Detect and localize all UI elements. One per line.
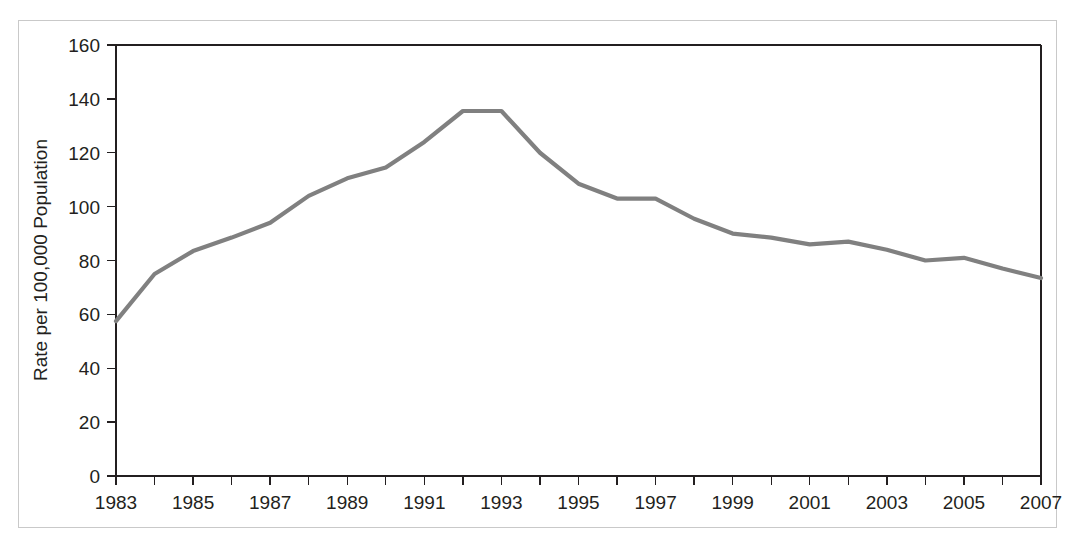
line-chart: 020406080100120140160 198319851987198919… — [0, 0, 1075, 547]
y-axis-tick-labels: 020406080100120140160 — [68, 35, 100, 487]
x-axis-tick-labels: 1983198519871989199119931995199719992001… — [95, 492, 1062, 513]
y-tick-label: 100 — [68, 197, 100, 218]
x-tick-label: 1993 — [480, 492, 522, 513]
y-tick-label: 160 — [68, 35, 100, 56]
x-tick-label: 2005 — [943, 492, 985, 513]
x-tick-label: 1991 — [403, 492, 445, 513]
x-tick-label: 1995 — [557, 492, 599, 513]
y-tick-label: 120 — [68, 143, 100, 164]
y-tick-label: 60 — [79, 304, 100, 325]
x-tick-label: 1985 — [172, 492, 214, 513]
y-tick-label: 140 — [68, 89, 100, 110]
plot-area — [116, 45, 1041, 476]
y-tick-label: 40 — [79, 358, 100, 379]
x-tick-label: 1999 — [712, 492, 754, 513]
y-tick-label: 20 — [79, 412, 100, 433]
data-series-line — [116, 111, 1041, 321]
x-tick-label: 2001 — [789, 492, 831, 513]
x-tick-label: 2007 — [1020, 492, 1062, 513]
x-tick-label: 2003 — [866, 492, 908, 513]
y-tick-label: 0 — [89, 466, 100, 487]
x-tick-label: 1983 — [95, 492, 137, 513]
x-axis-ticks — [116, 476, 1041, 485]
figure-container: 020406080100120140160 198319851987198919… — [0, 0, 1075, 547]
x-tick-label: 1997 — [634, 492, 676, 513]
y-axis-ticks — [107, 45, 116, 476]
y-tick-label: 80 — [79, 251, 100, 272]
x-tick-label: 1987 — [249, 492, 291, 513]
x-tick-label: 1989 — [326, 492, 368, 513]
y-axis-title: Rate per 100,000 Population — [30, 139, 51, 381]
